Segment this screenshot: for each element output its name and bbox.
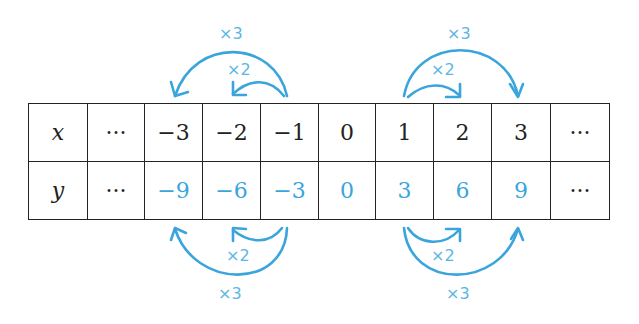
label-top-left-x2: ×2 <box>227 60 251 79</box>
label-top-left-x3: ×3 <box>219 24 243 43</box>
arrow-top-right-x2 <box>408 85 459 97</box>
label-bottom-right-x2: ×2 <box>431 246 455 265</box>
label-bottom-left-x2: ×2 <box>226 246 250 265</box>
label-top-right-x3: ×3 <box>447 24 471 43</box>
label-bottom-right-x3: ×3 <box>446 284 470 303</box>
label-top-right-x2: ×2 <box>431 60 455 79</box>
arrows-layer <box>0 0 639 324</box>
label-bottom-left-x3: ×3 <box>218 284 242 303</box>
